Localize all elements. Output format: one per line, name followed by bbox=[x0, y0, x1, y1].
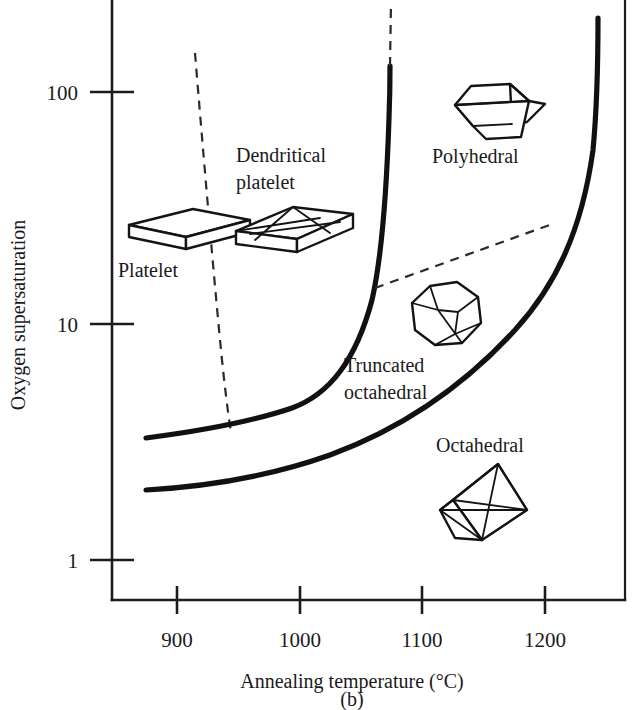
y-axis-title: Oxygen supersaturation bbox=[7, 220, 30, 411]
y-tick-label-10: 10 bbox=[57, 313, 78, 337]
region-label-truncated-octahedral: octahedral bbox=[344, 381, 428, 403]
x-tick-label-1200: 1200 bbox=[524, 628, 566, 652]
octahedral-truncated-boundary-solid bbox=[146, 18, 598, 490]
truncated-octahedral-crystal-icon bbox=[412, 282, 481, 345]
plot-axes bbox=[112, 0, 625, 600]
y-tick-label-100: 100 bbox=[47, 81, 79, 105]
region-label-octahedral: Octahedral bbox=[436, 434, 524, 456]
y-axis-tick-labels: 100 10 1 bbox=[47, 81, 79, 573]
x-tick-label-900: 900 bbox=[161, 628, 193, 652]
octahedral-crystal-icon bbox=[440, 464, 527, 540]
dendritical-polyhedral-boundary-extension-dashed bbox=[390, 2, 391, 66]
platelet-crystal-icon bbox=[129, 209, 250, 249]
y-tick-label-1: 1 bbox=[68, 549, 79, 573]
region-label-platelet: Platelet bbox=[118, 259, 178, 281]
x-axis-tick-labels: 900 1000 1100 1200 bbox=[161, 628, 566, 652]
x-tick-label-1100: 1100 bbox=[401, 628, 442, 652]
polyhedral-crystal-icon bbox=[455, 84, 545, 139]
phase-diagram-chart: 100 10 1 900 1000 1100 1200 bbox=[0, 0, 636, 710]
figure-container: 100 10 1 900 1000 1100 1200 bbox=[0, 0, 636, 710]
dendritical-platelet-crystal-icon bbox=[236, 207, 353, 252]
region-label-truncated: Truncated bbox=[344, 354, 424, 376]
polyhedral-truncated-boundary-dashed bbox=[375, 223, 555, 288]
region-label-polyhedral: Polyhedral bbox=[432, 145, 519, 168]
figure-caption: (b) bbox=[340, 688, 363, 710]
region-label-dendritical: Dendritical bbox=[236, 144, 326, 166]
x-tick-label-1000: 1000 bbox=[279, 628, 321, 652]
region-label-dendritical-platelet: platelet bbox=[236, 171, 295, 194]
